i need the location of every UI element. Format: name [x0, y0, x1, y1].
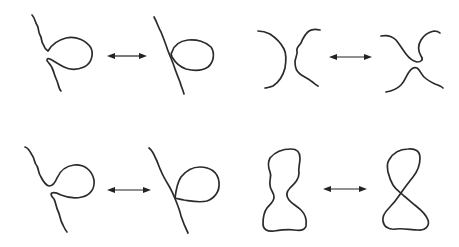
panel-top-left — [32, 15, 213, 94]
panel-top-right — [258, 29, 443, 92]
panel-bottom-left-arrow — [107, 187, 151, 193]
panel-bottom-left-left-figure — [25, 147, 94, 232]
panel-top-right-arrow — [329, 54, 372, 60]
panel-top-right-right-figure — [381, 31, 443, 92]
panel-top-left-arrow — [107, 53, 147, 59]
diagram-canvas — [0, 0, 459, 247]
panel-bottom-right-right-figure — [383, 149, 429, 230]
panel-top-left-right-figure — [154, 17, 213, 94]
panel-bottom-right — [263, 149, 428, 231]
panel-bottom-right-left-figure — [263, 149, 306, 231]
panel-top-left-left-figure — [32, 15, 92, 91]
panel-top-right-left-figure — [258, 29, 320, 88]
panel-bottom-left — [25, 147, 219, 233]
panel-bottom-right-arrow — [323, 186, 367, 192]
panel-bottom-left-right-figure — [149, 148, 219, 233]
